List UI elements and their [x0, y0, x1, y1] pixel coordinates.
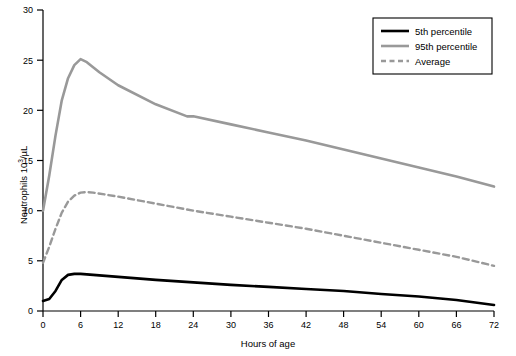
series-line — [43, 274, 494, 305]
x-tick-label: 24 — [188, 320, 198, 330]
x-tick-label: 54 — [376, 320, 386, 330]
x-tick-label: 72 — [489, 320, 499, 330]
series-line — [43, 59, 494, 211]
y-tick-label: 30 — [23, 5, 33, 15]
x-tick-label: 60 — [414, 320, 424, 330]
x-tick-label: 6 — [78, 320, 83, 330]
x-tick-label: 30 — [226, 320, 236, 330]
y-tick-label: 25 — [23, 56, 33, 66]
chart-container: Neutrophils 103/µL 0 5 10 15 20 25 30 — [0, 0, 516, 356]
x-axis-ticks — [43, 311, 494, 317]
y-axis-ticks — [37, 10, 43, 311]
x-tick-label: 12 — [113, 320, 123, 330]
legend-label-5th-percentile: 5th percentile — [415, 26, 472, 37]
data-series-group — [43, 59, 494, 305]
x-tick-label: 48 — [339, 320, 349, 330]
x-tick-label: 36 — [263, 320, 273, 330]
x-tick-label: 66 — [451, 320, 461, 330]
y-tick-label: 5 — [28, 256, 33, 266]
legend-label-average: Average — [415, 56, 450, 67]
x-tick-label: 18 — [151, 320, 161, 330]
y-tick-label: 15 — [23, 156, 33, 166]
y-tick-label: 0 — [28, 306, 33, 316]
legend-label-95th-percentile: 95th percentile — [415, 41, 477, 52]
x-axis-tick-labels: 0 6 12 18 24 30 36 42 48 54 60 66 72 — [40, 320, 499, 330]
x-axis-label: Hours of age — [241, 338, 295, 349]
x-tick-label: 42 — [301, 320, 311, 330]
y-tick-label: 10 — [23, 206, 33, 216]
series-line — [43, 192, 494, 266]
x-tick-label: 0 — [40, 320, 45, 330]
chart-plot: 0 5 10 15 20 25 30 0 6 12 1 — [0, 0, 516, 356]
legend-box: 5th percentile 95th percentile Average — [373, 18, 492, 74]
y-axis-tick-labels: 0 5 10 15 20 25 30 — [23, 5, 33, 316]
y-tick-label: 20 — [23, 106, 33, 116]
